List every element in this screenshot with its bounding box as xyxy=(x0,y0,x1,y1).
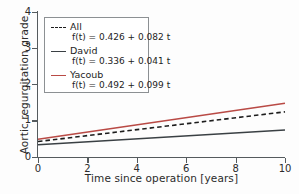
y-tick-label-0: 0 xyxy=(11,151,31,162)
x-tick-mark-2 xyxy=(87,158,88,163)
y-tick-label-3: 3 xyxy=(11,42,31,53)
legend-swatch-david xyxy=(51,51,66,52)
legend-entry-yacoub: Yacoub f(t) = 0.492 + 0.099 t xyxy=(49,70,144,94)
x-tick-label-10: 10 xyxy=(273,163,297,174)
legend-swatch-yacoub xyxy=(51,75,66,76)
legend-equation-david: f(t) = 0.336 + 0.041 t xyxy=(72,56,170,66)
y-tick-mark-2 xyxy=(32,84,37,85)
x-tick-mark-0 xyxy=(38,158,39,163)
x-tick-mark-8 xyxy=(236,158,237,163)
legend-label-david: David xyxy=(70,45,97,56)
y-tick-mark-1 xyxy=(32,120,37,121)
legend: All f(t) = 0.426 + 0.082 t David f(t) = … xyxy=(44,17,149,93)
x-tick-mark-10 xyxy=(285,158,286,163)
x-tick-label-4: 4 xyxy=(125,163,149,174)
aortic-regurgitation-chart: Aortic regurgitation grade Time since op… xyxy=(0,0,299,194)
legend-label-all: All xyxy=(70,21,82,32)
y-tick-label-4: 4 xyxy=(11,6,31,17)
legend-entry-david: David f(t) = 0.336 + 0.041 t xyxy=(49,46,144,70)
y-tick-mark-0 xyxy=(32,157,37,158)
line-david xyxy=(38,130,285,145)
x-tick-label-0: 0 xyxy=(26,163,50,174)
line-yacoub xyxy=(38,103,285,139)
y-tick-label-2: 2 xyxy=(11,78,31,89)
x-tick-label-2: 2 xyxy=(75,163,99,174)
legend-entry-all: All f(t) = 0.426 + 0.082 t xyxy=(49,22,144,46)
y-tick-mark-4 xyxy=(32,12,37,13)
x-tick-mark-4 xyxy=(137,158,138,163)
x-tick-mark-6 xyxy=(186,158,187,163)
x-tick-label-8: 8 xyxy=(224,163,248,174)
y-tick-mark-3 xyxy=(32,48,37,49)
x-tick-label-6: 6 xyxy=(174,163,198,174)
legend-swatch-all xyxy=(51,27,66,28)
legend-label-yacoub: Yacoub xyxy=(70,69,103,80)
y-tick-label-1: 1 xyxy=(11,114,31,125)
legend-equation-all: f(t) = 0.426 + 0.082 t xyxy=(72,32,170,42)
legend-equation-yacoub: f(t) = 0.492 + 0.099 t xyxy=(72,80,170,90)
